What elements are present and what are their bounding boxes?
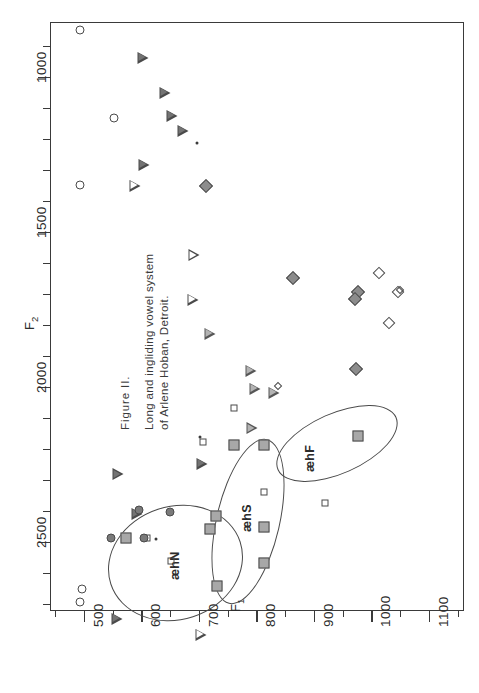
- y-tick-minor: [43, 573, 50, 574]
- data-point-dark-triangle: [111, 613, 122, 625]
- y-tick-minor: [43, 356, 50, 357]
- y-tick-minor: [43, 46, 50, 47]
- y-tick-label: 1000: [34, 51, 49, 83]
- data-point-gray-circle: [106, 534, 115, 543]
- y-tick-minor: [43, 108, 50, 109]
- x-tick-minor: [55, 611, 56, 617]
- data-point-open-triangle: [130, 180, 141, 192]
- x-axis-title: F1: [228, 599, 246, 612]
- x-tick-minor: [343, 611, 344, 617]
- caption-heading: Figure II.: [118, 254, 133, 430]
- data-point-gray-triangle: [246, 365, 257, 377]
- data-point-gray-circle: [134, 506, 143, 515]
- y-tick-minor: [43, 263, 50, 264]
- x-tick-label: 1000: [378, 595, 393, 627]
- cluster-label-aehS: æhS: [240, 504, 254, 532]
- y-tick-minor: [43, 294, 50, 295]
- data-point-gray-square: [229, 440, 240, 451]
- data-point-open-triangle: [195, 629, 206, 641]
- data-point-gray-square: [258, 522, 269, 533]
- x-tick-label: 1100: [436, 596, 451, 627]
- data-point-dot: [198, 436, 201, 439]
- data-point-open-circle: [75, 597, 84, 606]
- y-tick-minor: [43, 139, 50, 140]
- data-point-gray-square: [120, 533, 131, 544]
- data-point-dot: [154, 537, 157, 540]
- data-point-gray-circle: [140, 534, 149, 543]
- data-point-gray-triangle: [247, 422, 258, 434]
- data-point-gray-circle: [165, 507, 174, 516]
- figure-caption: Figure II. Long and ingliding vowel syst…: [118, 254, 172, 430]
- x-tick-major: [256, 611, 257, 622]
- y-tick-label: 2000: [34, 361, 49, 393]
- y-tick-minor: [43, 604, 50, 605]
- data-point-open-triangle: [188, 249, 199, 261]
- figure-container: 50060070080090010001100 1000150020002500…: [0, 0, 479, 693]
- data-point-open-circle: [75, 180, 84, 189]
- x-tick-major: [314, 611, 315, 622]
- y-tick-minor: [43, 325, 50, 326]
- y-tick-label: 1500: [34, 206, 49, 238]
- data-point-open-square: [260, 488, 267, 495]
- y-tick-minor: [43, 201, 50, 202]
- y-tick-minor: [43, 480, 50, 481]
- data-point-gray-square: [211, 581, 222, 592]
- x-tick-minor: [458, 611, 459, 617]
- x-tick-label: 900: [321, 603, 336, 627]
- y-tick-label: 2500: [34, 516, 49, 548]
- data-point-dark-triangle: [178, 125, 189, 137]
- x-tick-label: 500: [91, 603, 106, 627]
- data-point-dot: [196, 141, 199, 144]
- data-point-gray-square: [258, 557, 269, 568]
- data-point-dark-triangle: [160, 87, 171, 99]
- caption-line-1: Long and ingliding vowel system: [142, 254, 157, 430]
- data-point-open-circle: [75, 25, 84, 34]
- data-point-dark-triangle: [196, 458, 207, 470]
- x-tick-minor: [285, 611, 286, 617]
- caption-line-2: of Arlene Hoban, Detroit.: [157, 254, 172, 430]
- x-tick-major: [429, 611, 430, 622]
- data-point-gray-square: [204, 523, 215, 534]
- data-point-open-square: [231, 404, 238, 411]
- data-point-open-square: [199, 439, 206, 446]
- cluster-label-aehN: æhN: [168, 552, 182, 580]
- x-tick-minor: [400, 611, 401, 617]
- data-point-gray-triangle: [204, 328, 215, 340]
- x-tick-label: 800: [263, 603, 278, 627]
- data-point-dark-triangle: [139, 159, 150, 171]
- data-point-dark-triangle: [112, 468, 123, 480]
- y-axis-title: F2: [22, 317, 40, 330]
- data-point-open-circle: [110, 114, 119, 123]
- data-point-open-circle: [78, 585, 87, 594]
- data-point-gray-square: [210, 511, 221, 522]
- cluster-label-aehF: æhF: [303, 445, 317, 472]
- data-point-gray-square: [258, 440, 269, 451]
- y-tick-minor: [43, 170, 50, 171]
- y-tick-minor: [43, 418, 50, 419]
- y-tick-minor: [43, 449, 50, 450]
- data-point-open-square: [321, 499, 328, 506]
- data-point-open-square: [167, 558, 174, 565]
- x-tick-major: [371, 611, 372, 622]
- data-point-open-triangle: [187, 294, 198, 306]
- x-tick-major: [84, 611, 85, 622]
- data-point-gray-triangle: [249, 383, 260, 395]
- y-tick-minor: [43, 511, 50, 512]
- data-point-gray-square: [352, 430, 363, 441]
- data-point-dark-triangle: [138, 52, 149, 64]
- data-point-dark-triangle: [166, 110, 177, 122]
